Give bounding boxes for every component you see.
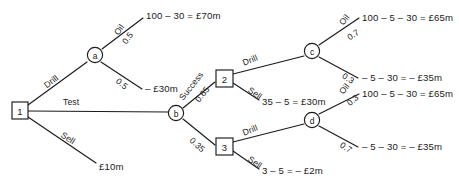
payoff-root-sell: £10m: [99, 161, 124, 172]
payoff-2-sell: 35 – 5 = £30m: [262, 96, 326, 107]
node-3-label: 3: [222, 142, 227, 153]
decision-tree-canvas: 1 a b 2 3 c d Drill Test Sell Oil: [0, 0, 459, 186]
branch-a-oil: [102, 18, 143, 49]
node-b-label: b: [174, 109, 179, 119]
edge-label-b-failure-probability: 0.35: [188, 135, 208, 154]
branch-root-test: [28, 111, 168, 112]
edge-label-3-drill: Drill: [241, 123, 259, 138]
payoff-a-dry: – £30m: [145, 83, 178, 94]
edge-label-test-root: Test: [63, 97, 80, 107]
node-a-label: a: [93, 51, 98, 61]
payoff-c-dry: – 5 – 30 = – £35m: [362, 72, 442, 83]
edge-label-2-drill: Drill: [241, 53, 259, 68]
edge-label-d-dry-probability: 0.7: [338, 140, 354, 155]
decision-tree-figure: 1 a b 2 3 c d Drill Test Sell Oil: [0, 0, 459, 186]
node-d-label: d: [310, 116, 315, 126]
edge-label-sell-root: Sell: [59, 130, 77, 146]
edge-label-a-dry-probability: 0.5: [114, 76, 130, 91]
branch-root-sell: [28, 117, 96, 163]
payoff-3-sell: 3 – 5 = – £2m: [262, 165, 323, 176]
payoff-d-oil: 100 – 5 – 30 = £65m: [362, 88, 453, 99]
node-1-label: 1: [17, 106, 22, 117]
payoff-d-dry: – 5 – 30 = – £35m: [362, 141, 442, 152]
edge-label-drill-root: Drill: [42, 73, 60, 90]
payoff-c-oil: 100 – 5 – 30 = £65m: [362, 12, 453, 23]
payoff-a-oil: 100 – 30 = £70m: [146, 10, 221, 21]
node-2-label: 2: [222, 74, 227, 85]
branch-d-dry: [319, 126, 358, 147]
payoff-labels: 100 – 30 = £70m – £30m £10m 35 – 5 = £30…: [99, 10, 453, 176]
edge-label-c-oil-probability: 0.7: [345, 27, 361, 42]
edge-labels: Drill Test Sell Oil 0.5 0.5 Success 0.65…: [42, 12, 361, 170]
